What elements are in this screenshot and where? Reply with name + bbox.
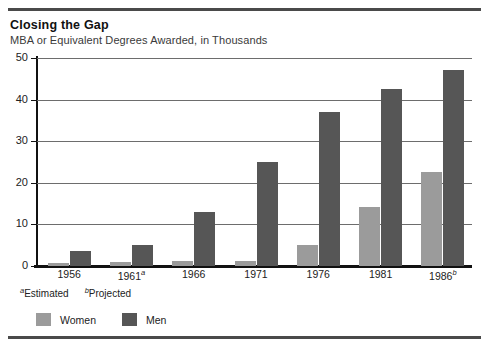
y-axis-tick	[31, 58, 37, 59]
y-axis-tick	[31, 224, 37, 225]
y-axis-tick	[31, 266, 37, 267]
bar-group	[110, 58, 153, 266]
y-axis-tick	[31, 100, 37, 101]
footnote-b: bProjected	[85, 286, 131, 299]
x-axis-tick-label: 1981	[351, 268, 411, 280]
bar-group	[297, 58, 340, 266]
legend-swatch-women	[36, 313, 51, 326]
bar-group	[235, 58, 278, 266]
bar-men-1956	[70, 251, 91, 266]
bar-men-1976	[319, 112, 340, 266]
bar-women-1981	[359, 207, 380, 266]
chart-subtitle: MBA or Equivalent Degrees Awarded, in Th…	[10, 34, 267, 46]
x-axis-tick-label: 1971	[226, 268, 286, 280]
bar-men-1961	[132, 245, 153, 266]
y-axis-tick-label: 30	[2, 135, 28, 146]
y-axis-tick-label: 0	[2, 260, 28, 271]
bar-men-1986	[443, 70, 464, 266]
legend-label: Women	[60, 314, 96, 326]
chart-legend: WomenMen	[36, 313, 166, 326]
top-rule	[8, 8, 481, 11]
y-axis-tick-label: 20	[2, 177, 28, 188]
x-axis-tick-label: 1961a	[101, 268, 161, 282]
bar-group	[172, 58, 215, 266]
bar-women-1966	[172, 261, 193, 266]
bar-series-layer	[38, 58, 472, 266]
bar-women-1956	[48, 263, 69, 266]
x-axis-tick-label: 1976	[288, 268, 348, 280]
page-title: Closing the Gap	[10, 18, 109, 32]
chart-figure: Closing the Gap MBA or Equivalent Degree…	[0, 0, 487, 348]
legend-item-women: Women	[36, 313, 96, 326]
bar-women-1971	[235, 261, 256, 266]
x-axis-tick-label: 1986b	[413, 268, 473, 282]
bottom-rule	[8, 336, 481, 339]
y-axis-tick-label: 10	[2, 218, 28, 229]
bar-women-1961	[110, 262, 131, 266]
bar-men-1966	[194, 212, 215, 266]
bar-men-1981	[381, 89, 402, 266]
bar-group	[421, 58, 464, 266]
bar-women-1976	[297, 245, 318, 266]
y-axis-tick-label: 50	[2, 52, 28, 63]
plot-area: 01020304050 19561961a1966197119761981198…	[36, 58, 472, 266]
bar-men-1971	[257, 162, 278, 266]
bar-group	[359, 58, 402, 266]
footnotes: aEstimatedbProjected	[20, 286, 147, 299]
bar-group	[48, 58, 91, 266]
legend-label: Men	[146, 314, 166, 326]
y-axis-tick-label: 40	[2, 94, 28, 105]
bar-women-1986	[421, 172, 442, 266]
x-axis-tick-label: 1966	[164, 268, 224, 280]
y-axis-tick	[31, 141, 37, 142]
footnote-a: aEstimated	[20, 286, 69, 299]
y-axis-tick	[31, 183, 37, 184]
x-axis-tick-label: 1956	[39, 268, 99, 280]
legend-swatch-men	[122, 313, 137, 326]
legend-item-men: Men	[122, 313, 166, 326]
